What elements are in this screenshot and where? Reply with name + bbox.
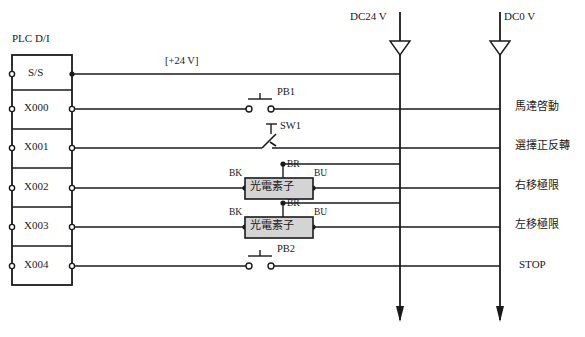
junction-dot-ss <box>69 71 74 76</box>
terminal-screw-left <box>9 106 14 111</box>
dc0v-arrow-down <box>496 306 504 322</box>
pb1-symbol[interactable] <box>246 93 274 112</box>
function-label-x000: 馬達啓動 <box>515 101 559 112</box>
terminal-label-x002: X002 <box>24 181 48 192</box>
dc0v-source-triangle <box>490 41 510 55</box>
terminal-label-x003: X003 <box>24 220 48 231</box>
terminal-screw-right <box>69 185 74 190</box>
terminal-screw-left <box>9 145 14 150</box>
sensor1-body-label: 光電素子 <box>250 181 294 192</box>
terminal-label-x001: X001 <box>24 141 48 152</box>
sensor2-br-label: BR <box>287 199 300 209</box>
junction-dot-sensor1-br <box>280 161 285 166</box>
terminal-screw-left <box>9 263 14 268</box>
terminal-label-ss: S/S <box>28 67 43 78</box>
pb2-symbol[interactable] <box>246 250 274 269</box>
sensor1-br-label: BR <box>287 160 300 170</box>
plc-block-title: PLC D/I <box>12 33 50 44</box>
terminal-screw-left <box>9 185 14 190</box>
terminal-screw-left <box>9 71 14 76</box>
terminal-label-x004: X004 <box>24 259 48 270</box>
dc24v-arrow-down <box>396 306 404 322</box>
pb1-label: PB1 <box>277 87 295 98</box>
function-label-x002: 右移極限 <box>515 180 559 191</box>
sensor2-body-label: 光電素子 <box>250 220 294 231</box>
terminal-screw-right <box>69 224 74 229</box>
terminal-screw-right <box>69 106 74 111</box>
sensor1-bk-label: BK <box>229 169 242 179</box>
plus24v-wire-label: [+24 V] <box>165 56 198 67</box>
terminal-screw-right <box>69 145 74 150</box>
pb2-label: PB2 <box>277 244 295 255</box>
sensor1-bu-label: BU <box>314 169 327 179</box>
junction-dot-sensor2-br <box>280 200 285 205</box>
sensor2-bu-label: BU <box>314 208 327 218</box>
terminal-label-x000: X000 <box>24 102 48 113</box>
function-label-x004: STOP <box>519 259 546 270</box>
terminal-screw-left <box>9 224 14 229</box>
sensor2-bk-label: BK <box>229 208 242 218</box>
function-label-x003: 左移極限 <box>515 219 559 230</box>
sw1-symbol[interactable] <box>262 124 277 148</box>
sw1-label: SW1 <box>280 121 301 132</box>
dc0v-rail-label: DC0 V <box>504 11 535 22</box>
dc24v-rail-label: DC24 V <box>350 11 387 22</box>
plc-wiring-diagram: PLC D/I S/S X000 X001 X002 X003 X004 [+2… <box>0 0 585 337</box>
function-label-x001: 選擇正反轉 <box>515 140 570 151</box>
terminal-screw-right <box>69 263 74 268</box>
dc24v-source-triangle <box>390 41 410 55</box>
